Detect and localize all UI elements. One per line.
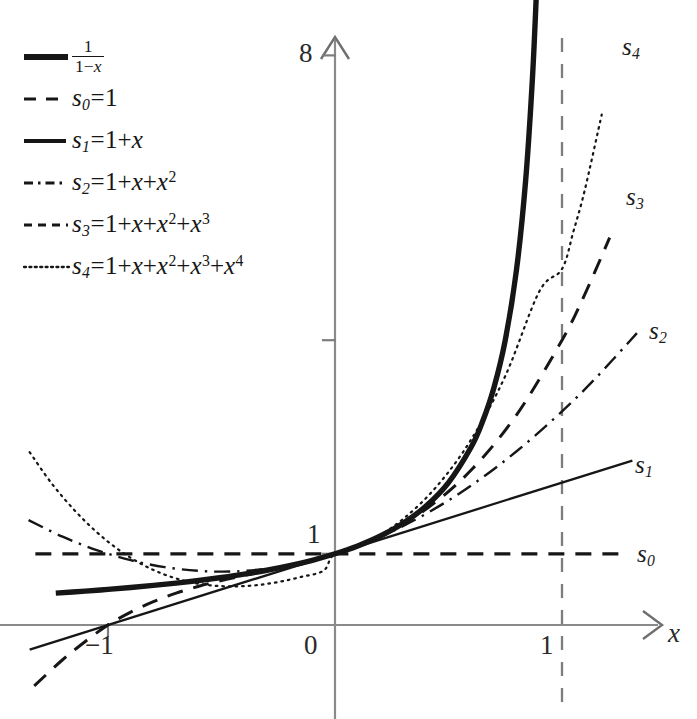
legend-row-s1: s1=1+x [22,120,322,162]
legend-row-f: 11−x [22,36,322,78]
legend-label-s4: s4=1+x+x2+x3+x4 [72,253,243,281]
legend-row-s2: s2=1+x+x2 [22,162,322,204]
curve-label-s3: s3 [626,184,644,212]
x-axis-name-label: x [668,620,680,647]
legend-line-style-f [22,47,72,67]
legend: 11−xs0=1s1=1+xs2=1+x+x2s3=1+x+x2+x3s4=1+… [22,36,322,288]
legend-label-s0: s0=1 [72,85,118,113]
curve-s3 [34,238,609,686]
legend-label-s3: s3=1+x+x2+x3 [72,211,210,239]
legend-line-style-s1 [22,131,72,151]
legend-label-f: 11−x [72,38,104,77]
legend-label-s2: s2=1+x+x2 [72,169,176,197]
legend-line-style-s3 [22,215,72,235]
curve-label-s2: s2 [649,318,667,346]
curve-label-s0: s0 [637,541,655,569]
x-tick-label-0: 0 [304,632,318,659]
legend-label-s1: s1=1+x [72,127,143,155]
legend-line-style-s4 [22,257,72,277]
x-tick-label-1: 1 [540,632,554,659]
legend-row-s3: s3=1+x+x2+x3 [22,204,322,246]
legend-line-style-s0 [22,89,72,109]
legend-line-style-s2 [22,173,72,193]
legend-row-s0: s0=1 [22,78,322,120]
curve-label-s1: s1 [635,452,653,480]
legend-row-s4: s4=1+x+x2+x3+x4 [22,246,322,288]
x-tick-label-minus-1: −1 [85,632,114,659]
y-tick-label-1: 1 [307,521,321,548]
figure-canvas: 8 1 −1 0 1 x s4s3s2s1s0 11−xs0=1s1=1+xs2… [0,0,697,719]
curve-label-s4: s4 [622,34,640,62]
